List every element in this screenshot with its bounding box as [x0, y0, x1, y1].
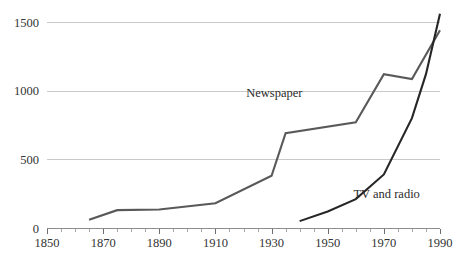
- line-chart-figure: 050010001500 185018701890191019301950197…: [0, 0, 462, 260]
- x-tick-labels-group: 18501870189019101930195019701990: [35, 236, 453, 250]
- y-tick-label-500: 500: [20, 153, 39, 167]
- x-axis-group: [47, 229, 441, 234]
- x-tick-label-1990: 1990: [428, 236, 453, 250]
- x-tick-label-1930: 1930: [259, 236, 284, 250]
- y-tick-label-1500: 1500: [14, 16, 39, 30]
- chart-canvas: 050010001500 185018701890191019301950197…: [0, 0, 462, 260]
- y-tick-label-0: 0: [33, 222, 39, 236]
- y-tick-labels-group: 050010001500: [14, 16, 39, 236]
- x-tick-label-1850: 1850: [35, 236, 60, 250]
- series-labels-group: NewspaperTV and radio: [246, 86, 420, 202]
- gridlines-group: [47, 23, 440, 160]
- series-label-tv-and-radio: TV and radio: [353, 187, 419, 201]
- y-tick-label-1000: 1000: [14, 84, 39, 98]
- x-tick-label-1950: 1950: [315, 236, 340, 250]
- x-tick-label-1910: 1910: [203, 236, 228, 250]
- x-tick-label-1870: 1870: [91, 236, 116, 250]
- series-label-newspaper: Newspaper: [246, 86, 303, 100]
- x-tick-label-1890: 1890: [147, 236, 172, 250]
- x-tick-label-1970: 1970: [371, 236, 396, 250]
